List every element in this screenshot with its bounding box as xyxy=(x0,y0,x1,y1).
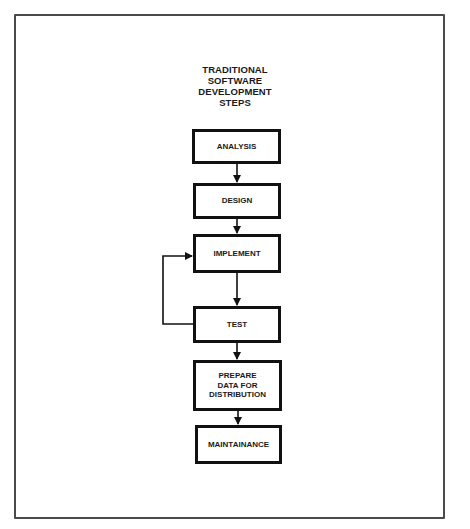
step-label: DESIGN xyxy=(222,196,253,206)
step-label: DISTRIBUTION xyxy=(209,390,266,400)
feedback-loop-arrow xyxy=(163,256,193,324)
step-maintainance: MAINTAINANCE xyxy=(195,425,282,464)
step-label: MAINTAINANCE xyxy=(208,440,269,450)
step-implement: IMPLEMENT xyxy=(193,234,281,273)
step-label: IMPLEMENT xyxy=(213,249,260,259)
step-label: ANALYSIS xyxy=(217,142,257,152)
step-design: DESIGN xyxy=(193,183,281,219)
step-analysis: ANALYSIS xyxy=(192,129,281,164)
step-test: TEST xyxy=(193,306,281,343)
step-label: TEST xyxy=(227,320,247,330)
step-label: DATA FOR xyxy=(218,381,258,391)
step-label: PREPARE xyxy=(218,371,256,381)
step-prepare-data: PREPARE DATA FOR DISTRIBUTION xyxy=(193,360,282,411)
